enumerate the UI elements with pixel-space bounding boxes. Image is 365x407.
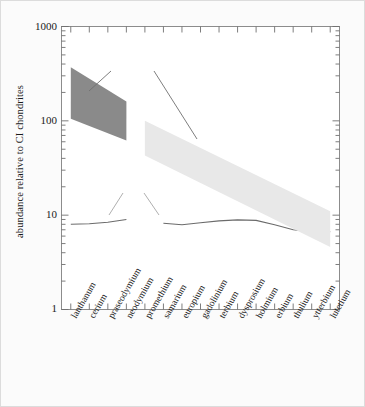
plot-svg: [1, 1, 365, 407]
figure-container: abundance relative to CI chondrites 1000…: [0, 0, 365, 407]
